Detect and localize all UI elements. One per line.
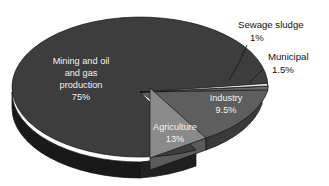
pie-chart-canvas: Mining and oil and gas production 75% Ag… (0, 0, 329, 186)
agriculture-label-name: Agriculture (153, 122, 197, 132)
sewage-sludge-label-name: Sewage sludge (238, 19, 304, 30)
industry-label-name: Industry (210, 93, 243, 103)
mining-label-value: 75% (72, 92, 90, 102)
municipal-label-name: Municipal (268, 51, 309, 62)
industry-label-value: 9.5% (216, 105, 237, 115)
municipal-label-value: 1.5% (272, 64, 294, 75)
agriculture-label-value: 13% (166, 134, 184, 144)
mining-label-line3: production (60, 80, 103, 90)
mining-label-line1: Mining and oil (53, 56, 110, 66)
pie-chart: Mining and oil and gas production 75% Ag… (0, 0, 329, 186)
mining-label-line2: and gas (65, 68, 98, 78)
sewage-sludge-label-value: 1% (250, 32, 264, 43)
